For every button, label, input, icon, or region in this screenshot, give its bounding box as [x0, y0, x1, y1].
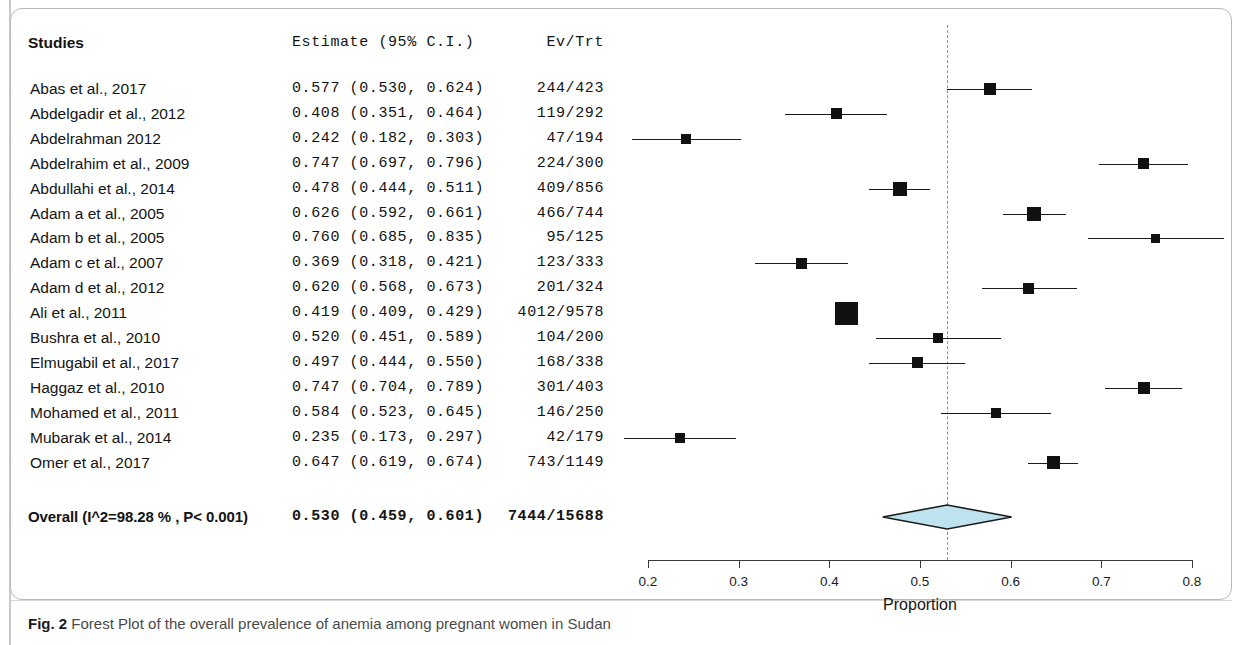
overall-evtrt: 7444/15688 — [506, 506, 604, 528]
table-row: Bushra et al., 20100.520 (0.451, 0.589)1… — [0, 327, 640, 349]
column-header-estimate: Estimate (95% C.I.) — [292, 32, 504, 54]
study-estimate: 0.408 (0.351, 0.464) — [292, 103, 504, 125]
study-evtrt: 244/423 — [506, 78, 604, 100]
study-label: Ali et al., 2011 — [30, 302, 292, 324]
study-evtrt: 104/200 — [506, 327, 604, 349]
figure-caption: Fig. 2 Forest Plot of the overall preval… — [28, 615, 611, 632]
study-label: Mohamed et al., 2011 — [30, 402, 292, 424]
study-estimate: 0.497 (0.444, 0.550) — [292, 352, 504, 374]
study-evtrt: 42/179 — [506, 427, 604, 449]
study-estimate: 0.577 (0.530, 0.624) — [292, 78, 504, 100]
study-evtrt: 123/333 — [506, 252, 604, 274]
overall-estimate: 0.530 (0.459, 0.601) — [292, 506, 504, 528]
table-row: Ali et al., 20110.419 (0.409, 0.429)4012… — [0, 302, 640, 324]
table-row: Mubarak et al., 20140.235 (0.173, 0.297)… — [0, 427, 640, 449]
study-estimate: 0.584 (0.523, 0.645) — [292, 402, 504, 424]
study-label: Adam b et al., 2005 — [30, 227, 292, 249]
study-evtrt: 466/744 — [506, 203, 604, 225]
study-label: Haggaz et al., 2010 — [30, 377, 292, 399]
table-row: Adam c et al., 20070.369 (0.318, 0.421)1… — [0, 252, 640, 274]
table-header-row: Studies Estimate (95% C.I.) Ev/Trt — [0, 32, 640, 54]
study-label: Abdullahi et al., 2014 — [30, 178, 292, 200]
study-label: Abdelgadir et al., 2012 — [30, 103, 292, 125]
study-estimate: 0.760 (0.685, 0.835) — [292, 227, 504, 249]
study-evtrt: 409/856 — [506, 178, 604, 200]
caption-divider — [11, 600, 1232, 601]
table-row: Abdelrahim et al., 20090.747 (0.697, 0.7… — [0, 153, 640, 175]
table-row: Mohamed et al., 20110.584 (0.523, 0.645)… — [0, 402, 640, 424]
study-label: Bushra et al., 2010 — [30, 327, 292, 349]
study-estimate: 0.620 (0.568, 0.673) — [292, 277, 504, 299]
study-estimate: 0.520 (0.451, 0.589) — [292, 327, 504, 349]
table-row: Abdullahi et al., 20140.478 (0.444, 0.51… — [0, 178, 640, 200]
table-row: Abdelrahman 20120.242 (0.182, 0.303)47/1… — [0, 128, 640, 150]
study-evtrt: 201/324 — [506, 277, 604, 299]
study-evtrt: 301/403 — [506, 377, 604, 399]
study-evtrt: 168/338 — [506, 352, 604, 374]
study-label: Adam a et al., 2005 — [30, 203, 292, 225]
column-header-evtrt: Ev/Trt — [506, 32, 604, 54]
column-header-studies: Studies — [28, 32, 290, 54]
table-row: Adam a et al., 20050.626 (0.592, 0.661)4… — [0, 203, 640, 225]
overall-row: Overall (I^2=98.28 % , P< 0.001) 0.530 (… — [0, 506, 640, 528]
overall-label: Overall (I^2=98.28 % , P< 0.001) — [28, 506, 290, 528]
study-label: Abas et al., 2017 — [30, 78, 292, 100]
table-row: Adam b et al., 20050.760 (0.685, 0.835)9… — [0, 227, 640, 249]
caption-label: Fig. 2 — [28, 615, 67, 632]
study-estimate: 0.242 (0.182, 0.303) — [292, 128, 504, 150]
study-evtrt: 224/300 — [506, 153, 604, 175]
study-estimate: 0.419 (0.409, 0.429) — [292, 302, 504, 324]
caption-text: Forest Plot of the overall prevalence of… — [71, 615, 611, 632]
study-label: Abdelrahman 2012 — [30, 128, 292, 150]
study-estimate: 0.235 (0.173, 0.297) — [292, 427, 504, 449]
table-row: Abas et al., 20170.577 (0.530, 0.624)244… — [0, 78, 640, 100]
study-label: Abdelrahim et al., 2009 — [30, 153, 292, 175]
table-row: Adam d et al., 20120.620 (0.568, 0.673)2… — [0, 277, 640, 299]
study-evtrt: 119/292 — [506, 103, 604, 125]
study-label: Elmugabil et al., 2017 — [30, 352, 292, 374]
study-estimate: 0.626 (0.592, 0.661) — [292, 203, 504, 225]
table-row: Abdelgadir et al., 20120.408 (0.351, 0.4… — [0, 103, 640, 125]
study-estimate: 0.478 (0.444, 0.511) — [292, 178, 504, 200]
study-label: Adam d et al., 2012 — [30, 277, 292, 299]
study-evtrt: 146/250 — [506, 402, 604, 424]
study-estimate: 0.647 (0.619, 0.674) — [292, 452, 504, 474]
study-estimate: 0.747 (0.697, 0.796) — [292, 153, 504, 175]
study-evtrt: 95/125 — [506, 227, 604, 249]
table-row: Omer et al., 20170.647 (0.619, 0.674)743… — [0, 452, 640, 474]
table-row: Elmugabil et al., 20170.497 (0.444, 0.55… — [0, 352, 640, 374]
figure-page: Studies Estimate (95% C.I.) Ev/Trt Abas … — [0, 0, 1237, 645]
study-evtrt: 743/1149 — [506, 452, 604, 474]
study-estimate: 0.747 (0.704, 0.789) — [292, 377, 504, 399]
study-estimate: 0.369 (0.318, 0.421) — [292, 252, 504, 274]
study-evtrt: 4012/9578 — [506, 302, 604, 324]
forest-table: Studies Estimate (95% C.I.) Ev/Trt Abas … — [0, 0, 640, 560]
study-evtrt: 47/194 — [506, 128, 604, 150]
study-label: Adam c et al., 2007 — [30, 252, 292, 274]
study-label: Omer et al., 2017 — [30, 452, 292, 474]
study-label: Mubarak et al., 2014 — [30, 427, 292, 449]
table-row: Haggaz et al., 20100.747 (0.704, 0.789)3… — [0, 377, 640, 399]
